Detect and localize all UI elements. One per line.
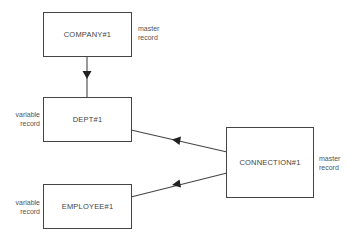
node-annotation: master record — [138, 24, 159, 42]
annotation-line: variable — [2, 198, 40, 207]
annotation-line: master — [138, 24, 159, 33]
node-connection: CONNECTION#1 — [226, 127, 314, 198]
arrowhead-down-icon — [83, 71, 92, 79]
annotation-line: record — [319, 163, 340, 172]
node-dept: DEPT#1 — [43, 97, 132, 142]
node-label: DEPT#1 — [73, 115, 103, 124]
node-label: EMPLOYEE#1 — [62, 202, 114, 211]
arrowhead-left-icon — [172, 137, 181, 146]
node-label: COMPANY#1 — [64, 30, 112, 39]
node-annotation: variable record — [2, 198, 40, 216]
annotation-line: variable — [2, 110, 40, 119]
node-company: COMPANY#1 — [43, 12, 132, 57]
annotation-line: record — [138, 33, 159, 42]
node-employee: EMPLOYEE#1 — [43, 184, 132, 229]
node-annotation: master record — [319, 154, 340, 172]
annotation-line: record — [2, 119, 40, 128]
node-label: CONNECTION#1 — [239, 158, 300, 167]
annotation-line: master — [319, 154, 340, 163]
node-annotation: variable record — [2, 110, 40, 128]
annotation-line: record — [2, 207, 40, 216]
